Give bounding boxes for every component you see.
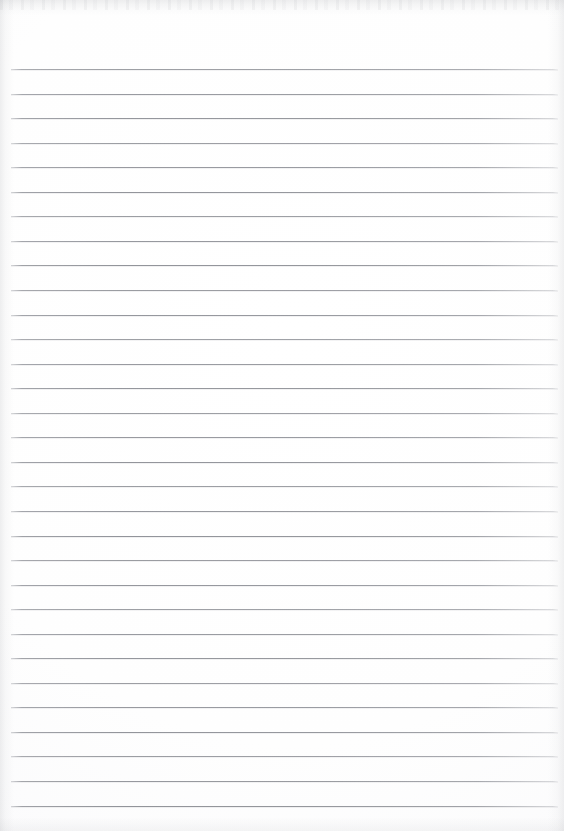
rule-line xyxy=(11,364,558,365)
rule-line xyxy=(11,634,558,635)
rule-line xyxy=(11,536,558,537)
rule-line xyxy=(11,781,558,782)
rule-line xyxy=(11,167,558,168)
rule-line xyxy=(11,241,558,242)
rule-line xyxy=(11,290,558,291)
rule-line xyxy=(11,118,558,119)
rule-line xyxy=(11,94,558,95)
scan-edge-shadow-right xyxy=(548,0,564,831)
scan-edge-shadow-left xyxy=(0,0,14,831)
rule-line xyxy=(11,707,558,708)
rule-line xyxy=(11,683,558,684)
rule-line xyxy=(11,315,558,316)
rule-line xyxy=(11,560,558,561)
rule-line xyxy=(11,806,558,807)
rule-line xyxy=(11,437,558,438)
rule-line xyxy=(11,732,558,733)
rule-line xyxy=(11,192,558,193)
rule-line xyxy=(11,339,558,340)
rule-line xyxy=(11,585,558,586)
rule-line xyxy=(11,462,558,463)
ruled-lines-group xyxy=(0,0,564,831)
rule-line xyxy=(11,388,558,389)
rule-line xyxy=(11,486,558,487)
rule-line xyxy=(11,511,558,512)
rule-line xyxy=(11,143,558,144)
rule-line xyxy=(11,609,558,610)
rule-line xyxy=(11,265,558,266)
rule-line xyxy=(11,413,558,414)
scan-edge-shadow-top xyxy=(0,0,564,16)
rule-line xyxy=(11,756,558,757)
rule-line xyxy=(11,658,558,659)
scanned-page xyxy=(0,0,564,831)
rule-line xyxy=(11,69,558,70)
scan-edge-shadow-bottom xyxy=(0,817,564,831)
rule-line xyxy=(11,216,558,217)
